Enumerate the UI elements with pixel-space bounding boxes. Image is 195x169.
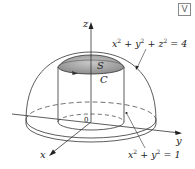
cylinder-equation: x2 + y2 = 1 (128, 148, 180, 160)
sphere-equation: x2 + y2 + z2 = 4 (112, 37, 187, 49)
origin-label: 0 (84, 116, 88, 124)
z-axis-label: z (82, 18, 89, 29)
y-axis (12, 114, 182, 135)
video-icon[interactable]: V (178, 3, 191, 16)
curve-label-c: C (100, 74, 108, 85)
sphere-leader-line (137, 49, 146, 68)
y-axis-label: y (175, 135, 182, 146)
surface-label-s: S (97, 60, 104, 71)
x-axis-label: x (40, 149, 46, 160)
hemisphere-cylinder-diagram: z y x 0 S C x2 + y2 + z2 = 4 x2 + y2 = 1 (0, 0, 195, 169)
